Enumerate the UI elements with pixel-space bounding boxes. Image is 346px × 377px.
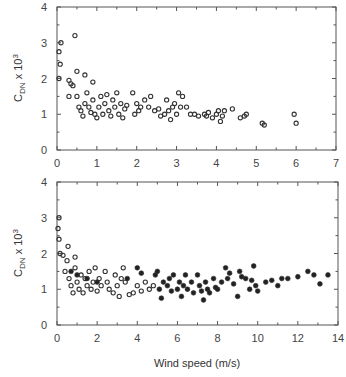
open-data-point [180,94,184,98]
filled-data-point [85,276,90,281]
bottom-ylabel: CDN x 103 [11,229,27,277]
filled-data-point [269,278,274,283]
y-tick-label: 1 [41,283,47,295]
open-data-point [57,237,61,241]
open-data-point [107,287,111,291]
open-data-point [131,291,135,295]
filled-data-point [189,280,194,285]
open-data-point [75,94,79,98]
x-axis-title: Wind speed (m/s) [154,357,240,369]
filled-data-point [285,276,290,281]
filled-data-point [185,287,190,292]
filled-data-point [75,273,80,278]
filled-data-point [235,294,240,299]
filled-data-point [223,265,228,270]
x-tick-label: 12 [292,332,304,344]
x-tick-label: 2 [134,157,140,169]
open-data-point [133,112,137,116]
open-data-point [117,294,121,298]
open-data-point [85,91,89,95]
open-data-point [103,101,107,105]
filled-data-point [253,283,258,288]
open-data-point [167,109,171,113]
open-data-point [206,110,210,114]
open-data-point [81,114,85,118]
open-data-point [174,112,178,116]
filled-data-point [275,283,280,288]
filled-data-point [199,289,204,294]
filled-data-point [255,289,260,294]
open-data-point [147,287,151,291]
open-data-point [77,287,81,291]
filled-data-point [95,280,100,285]
filled-data-point [211,276,216,281]
filled-data-point [227,271,232,276]
open-data-point [73,266,77,270]
x-tick-label: 2 [94,332,100,344]
open-data-point [83,73,87,77]
open-data-point [184,105,188,109]
open-data-point [111,98,115,102]
open-data-point [210,116,214,120]
open-data-point [85,284,89,288]
x-tick-label: 8 [215,332,221,344]
filled-data-point [249,278,254,283]
open-data-point [115,91,119,95]
open-data-point [157,107,161,111]
open-data-point [99,94,103,98]
y-tick-label: 3 [41,212,47,224]
open-data-point [135,284,139,288]
x-tick-label: 6 [293,157,299,169]
y-tick-label: 0 [41,144,47,156]
open-data-point [87,105,91,109]
filled-data-point [135,265,140,270]
filled-data-point [197,283,202,288]
open-data-point [178,105,182,109]
open-data-point [119,276,123,280]
open-data-point [109,114,113,118]
open-data-point [121,116,125,120]
filled-data-point [191,290,196,295]
filled-data-point [203,280,208,285]
open-data-point [230,107,234,111]
filled-data-point [305,269,310,274]
filled-data-point [183,273,188,278]
open-data-point [121,266,125,270]
x-tick-label: 7 [333,157,339,169]
open-data-point [73,255,77,259]
open-data-point [101,112,105,116]
open-data-point [139,289,143,293]
bottom-plot: 0246810121401234 [41,176,344,344]
open-data-point [95,116,99,120]
open-data-point [58,62,62,66]
plot-frame [57,182,338,325]
filled-data-point [225,276,230,281]
open-data-point [125,103,129,107]
open-data-point [143,98,147,102]
open-data-point [119,101,123,105]
open-data-point [79,109,83,113]
open-data-point [81,291,85,295]
open-data-point [57,50,61,54]
open-data-point [151,284,155,288]
open-data-point [113,273,117,277]
open-data-point [176,91,180,95]
y-tick-label: 3 [41,37,47,49]
filled-data-point [181,283,186,288]
x-tick-label: 0 [54,332,60,344]
open-data-point [143,280,147,284]
top-plot: 0123456701234 [41,1,339,169]
open-data-point [73,34,77,38]
filled-data-point [195,273,200,278]
filled-data-point [263,280,268,285]
open-data-point [93,266,97,270]
open-data-point [89,287,93,291]
x-tick-label: 6 [174,332,180,344]
top-ylabel: CDN x 103 [11,54,27,102]
open-data-point [99,284,103,288]
filled-data-point [125,276,130,281]
y-tick-label: 1 [41,108,47,120]
open-data-point [83,101,87,105]
open-data-point [222,109,226,113]
open-data-point [117,112,121,116]
